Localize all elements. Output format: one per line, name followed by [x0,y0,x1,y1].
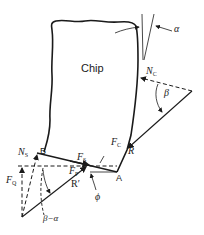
fp-sub: P [75,171,78,177]
alpha-label: α [174,24,179,34]
nc-sub: C [153,71,157,77]
fs-label: FS [77,152,86,163]
point-a-label: A [116,174,122,183]
beta-label: β [164,88,169,98]
chip-label: Chip [81,63,104,74]
ns-main: N [18,146,25,157]
fc-label: FC [111,137,121,148]
vertical-reference [142,14,143,60]
fs-sub: S [83,157,86,163]
fq-label: FQ [6,175,16,186]
beta-alpha-arc [43,170,50,193]
fs-marker-tick [100,156,104,163]
fp-label: FP [69,166,78,177]
nc-label: NC [146,66,157,77]
diagram-lines [0,0,204,235]
r-prime-label: R′ [71,179,80,189]
point-b-label: B [40,147,46,156]
chip-outline [44,20,136,152]
r-force-line [128,91,192,148]
beta-minus-alpha-label: β−α [43,214,58,223]
fq-sub: Q [12,180,16,186]
nc-main: N [146,65,153,76]
rake-face-reference [144,14,154,60]
phi-label: ϕ [95,192,100,202]
ns-label: NS [18,147,28,158]
force-diagram: Chip α NC β FC R B A NS FS FP FQ R′ ϕ β−… [0,0,204,235]
r-label: R [128,146,134,156]
phi-arc [91,174,96,190]
fc-sub: C [117,142,121,148]
alpha-arrow [156,26,172,31]
alpha-arc [115,27,139,33]
ns-sub: S [25,152,28,158]
beta-arc [156,84,162,112]
